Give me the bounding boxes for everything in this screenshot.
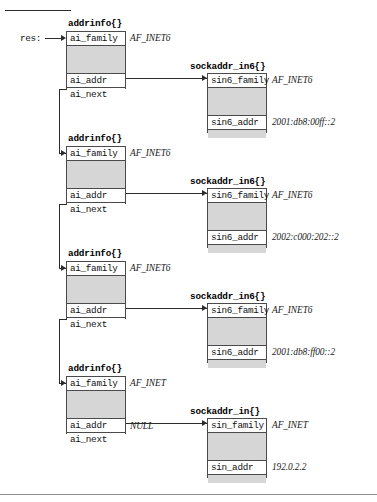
addrinfo-ai-family-label-3: ai_family	[70, 378, 118, 389]
addrinfo-row-ai-addr-3: ai_addr	[67, 419, 125, 433]
sockaddr-family-value-2: AF_INET6	[272, 305, 312, 315]
sockaddr-row-family-3: sin_family	[208, 419, 266, 433]
addrinfo-row-ai-addr-2: ai_addr	[67, 304, 125, 318]
sockaddr-box-2: sin6_family sin6_addr	[207, 303, 267, 363]
addrinfo-ai-next-label-2: ai_next	[70, 319, 107, 330]
addrinfo-row-ai-addr-0: ai_addr	[67, 74, 125, 88]
sockaddr-row-family-2: sin6_family	[208, 304, 266, 318]
addrinfo-row-ai-family-1: ai_family	[67, 147, 125, 161]
sockaddr-addr-label-0: sin6_addr	[211, 117, 259, 128]
addrinfo-ai-addr-label-2: ai_addr	[70, 305, 107, 316]
addrinfo-ai-next-label-1: ai_next	[70, 204, 107, 215]
ai-next-connector-h-2	[59, 319, 67, 320]
ai-next-connector-h-1	[59, 204, 67, 205]
addrinfo-row-ai-next-0: ai_next	[67, 88, 125, 102]
sockaddr-row-addr-2: sin6_addr	[208, 346, 266, 360]
sockaddr-row-addr-3: sin_addr	[208, 461, 266, 475]
sockaddr-row-filler-top-2	[208, 318, 266, 346]
sockaddr-family-value-1: AF_INET6	[272, 190, 312, 200]
sockaddr-box-3: sin_family sin_addr	[207, 418, 267, 478]
addrinfo-ai-family-label-1: ai_family	[70, 148, 118, 159]
addrinfo-row-filler-2	[67, 276, 125, 304]
addrinfo-ai-addr-label-0: ai_addr	[70, 75, 107, 86]
addrinfo-ai-family-label-2: ai_family	[70, 263, 118, 274]
addrinfo-row-ai-next-3: ai_next	[67, 433, 125, 447]
addrinfo-ai-next-label-3: ai_next	[70, 434, 107, 445]
sockaddr-row-addr-1: sin6_addr	[208, 231, 266, 245]
sockaddr-box-0: sin6_family sin6_addr	[207, 73, 267, 133]
addrinfo-ai-family-value-0: AF_INET6	[130, 33, 170, 43]
sockaddr-addr-value-2: 2001:db8:ff00::2	[272, 347, 335, 357]
ai-next-connector-v-1	[59, 204, 60, 268]
addrinfo-row-filler-3	[67, 391, 125, 419]
sockaddr-row-filler-top-0	[208, 88, 266, 116]
addrinfo-title-0: addrinfo{}	[68, 18, 122, 29]
addrinfo-ai-addr-label-3: ai_addr	[70, 420, 107, 431]
sockaddr-row-filler-bottom-1	[208, 245, 266, 253]
addrinfo-row-filler-0	[67, 46, 125, 74]
sockaddr-family-label-2: sin6_family	[211, 305, 269, 316]
bottom-rule	[0, 494, 377, 495]
sockaddr-addr-label-2: sin6_addr	[211, 347, 259, 358]
addrinfo-row-ai-family-2: ai_family	[67, 262, 125, 276]
addrinfo-row-filler-1	[67, 161, 125, 189]
sockaddr-family-label-0: sin6_family	[211, 75, 269, 86]
addrinfo-row-ai-addr-1: ai_addr	[67, 189, 125, 203]
addrinfo-title-2: addrinfo{}	[68, 248, 122, 259]
sockaddr-title-0: sockaddr_in6{}	[190, 61, 265, 72]
sockaddr-family-label-3: sin_family	[211, 420, 264, 431]
res-pointer-line	[45, 38, 62, 39]
addrinfo-ai-addr-label-1: ai_addr	[70, 190, 107, 201]
diagram-canvas: res: addrinfo{} ai_family ai_addr ai_nex…	[0, 0, 377, 502]
sockaddr-box-1: sin6_family sin6_addr	[207, 188, 267, 248]
addrinfo-box-1: ai_family ai_addr ai_next	[66, 146, 126, 204]
sockaddr-family-label-1: sin6_family	[211, 190, 269, 201]
sockaddr-row-filler-bottom-0	[208, 130, 266, 138]
sockaddr-row-addr-0: sin6_addr	[208, 116, 266, 130]
sockaddr-row-family-0: sin6_family	[208, 74, 266, 88]
ai-addr-connector-0	[126, 78, 207, 79]
addrinfo-row-ai-family-0: ai_family	[67, 32, 125, 46]
sockaddr-addr-value-0: 2001:db8:00ff::2	[272, 117, 335, 127]
sockaddr-title-1: sockaddr_in6{}	[190, 176, 265, 187]
sockaddr-row-family-1: sin6_family	[208, 189, 266, 203]
ai-addr-connector-3	[126, 423, 207, 424]
addrinfo-title-1: addrinfo{}	[68, 133, 122, 144]
sockaddr-title-2: sockaddr_in6{}	[190, 291, 265, 302]
ai-addr-connector-1	[126, 193, 207, 194]
ai-addr-connector-2	[126, 308, 207, 309]
ai-next-connector-h-0	[59, 89, 67, 90]
sockaddr-family-value-3: AF_INET	[272, 420, 308, 430]
ai-next-connector-v-2	[59, 319, 60, 383]
sockaddr-addr-label-3: sin_addr	[211, 462, 253, 473]
sockaddr-addr-value-1: 2002:c000:202::2	[272, 232, 339, 242]
sockaddr-row-filler-bottom-3	[208, 475, 266, 483]
addrinfo-title-3: addrinfo{}	[68, 363, 122, 374]
sockaddr-title-3: sockaddr_in{}	[190, 406, 260, 417]
addrinfo-box-0: ai_family ai_addr ai_next	[66, 31, 126, 89]
addrinfo-ai-family-value-3: AF_INET	[130, 378, 166, 388]
sockaddr-row-filler-bottom-2	[208, 360, 266, 368]
addrinfo-row-ai-family-3: ai_family	[67, 377, 125, 391]
ai-next-connector-v-0	[59, 89, 60, 153]
addrinfo-row-ai-next-1: ai_next	[67, 203, 125, 217]
addrinfo-ai-family-value-2: AF_INET6	[130, 263, 170, 273]
addrinfo-box-3: ai_family ai_addr ai_next	[66, 376, 126, 434]
sockaddr-row-filler-top-3	[208, 433, 266, 461]
addrinfo-row-ai-next-2: ai_next	[67, 318, 125, 332]
addrinfo-ai-family-value-1: AF_INET6	[130, 148, 170, 158]
sockaddr-family-value-0: AF_INET6	[272, 75, 312, 85]
sockaddr-addr-value-3: 192.0.2.2	[272, 462, 306, 472]
addrinfo-ai-next-label-0: ai_next	[70, 89, 107, 100]
addrinfo-box-2: ai_family ai_addr ai_next	[66, 261, 126, 319]
top-rule	[5, 10, 71, 11]
res-pointer-label: res:	[20, 33, 41, 44]
sockaddr-row-filler-top-1	[208, 203, 266, 231]
addrinfo-ai-family-label-0: ai_family	[70, 33, 118, 44]
sockaddr-addr-label-1: sin6_addr	[211, 232, 259, 243]
